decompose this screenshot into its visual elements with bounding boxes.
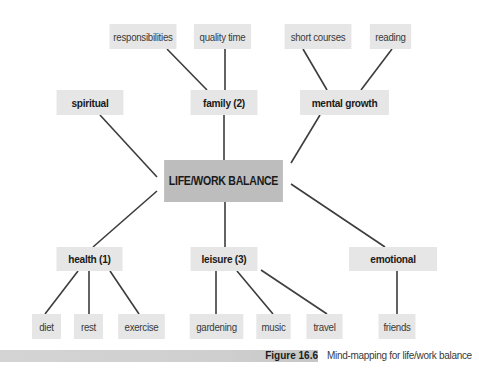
branch-node-leisure: leisure (3) bbox=[191, 247, 258, 271]
edge-center-spiritual bbox=[100, 115, 157, 177]
branch-node-mental-growth: mental growth bbox=[300, 90, 389, 115]
leaf-node-quality-time: quality time bbox=[194, 24, 251, 49]
branch-node-family: family (2) bbox=[191, 90, 258, 115]
branch-node-spiritual: spiritual bbox=[57, 90, 124, 115]
leaf-node-reading: reading bbox=[370, 24, 411, 49]
edge-leisure-music bbox=[237, 271, 273, 314]
edge-center-health bbox=[93, 191, 157, 247]
leaf-node-friends: friends bbox=[379, 314, 416, 339]
leaf-node-travel: travel bbox=[306, 314, 342, 339]
edge-center-mental-growth bbox=[291, 115, 320, 163]
edge-health-diet bbox=[45, 271, 78, 314]
edge-health-exercise bbox=[110, 271, 139, 314]
leaf-node-exercise: exercise bbox=[118, 314, 165, 339]
edge-family-responsibilities bbox=[167, 49, 207, 90]
leaf-node-short-courses: short courses bbox=[285, 24, 352, 49]
leaf-node-responsibilities: responsibilities bbox=[110, 24, 177, 49]
figure-caption: Mind-mapping for life/work balance bbox=[327, 349, 472, 363]
center-node: LIFE/WORK BALANCE bbox=[164, 160, 283, 202]
edge-leisure-travel bbox=[261, 270, 327, 314]
edge-mental-growth-short-courses bbox=[303, 49, 327, 90]
edge-center-emotional bbox=[291, 184, 385, 247]
leaf-node-diet: diet bbox=[32, 314, 61, 339]
figure-label: Figure 16.6 bbox=[260, 350, 318, 362]
leaf-node-gardening: gardening bbox=[190, 314, 244, 339]
leaf-node-rest: rest bbox=[74, 314, 103, 339]
branch-node-emotional: emotional bbox=[349, 247, 437, 271]
leaf-node-music: music bbox=[256, 314, 290, 339]
branch-node-health: health (1) bbox=[57, 247, 123, 271]
edge-mental-growth-reading bbox=[361, 49, 392, 90]
